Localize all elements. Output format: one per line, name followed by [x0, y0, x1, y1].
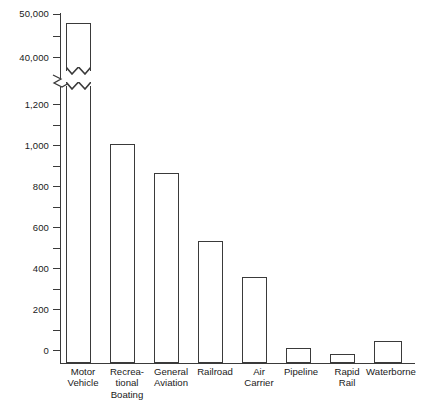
bar-general-aviation	[154, 173, 179, 363]
y-tick-major	[53, 145, 60, 146]
y-axis-tick-label: 0	[0, 346, 49, 356]
x-axis-label-waterborne: Waterborne	[358, 366, 423, 377]
y-axis-tick-label: 200	[0, 305, 49, 315]
y-axis-upper-segment	[60, 13, 61, 81]
y-tick-minor	[53, 207, 60, 208]
y-tick-major	[53, 350, 60, 351]
bar-pipeline	[286, 348, 311, 363]
bar-railroad	[198, 241, 223, 363]
bar-motor-vehicle-lower	[66, 86, 91, 363]
y-tick-major	[53, 57, 60, 58]
y-axis-tick-label: 400	[0, 264, 49, 274]
bar-break-top-icon	[66, 67, 91, 75]
y-tick-minor	[53, 330, 60, 331]
x-axis-baseline	[60, 363, 415, 364]
y-tick-minor	[53, 36, 60, 37]
y-tick-major	[53, 309, 60, 310]
bar-air-carrier	[242, 277, 267, 363]
y-axis-tick-label: 50,000	[0, 9, 49, 19]
y-tick-minor	[53, 248, 60, 249]
y-tick-major	[53, 14, 60, 15]
y-axis-tick-label: 1,200	[0, 100, 49, 110]
bar-rapid-rail	[330, 354, 355, 363]
y-axis-tick-label: 40,000	[0, 53, 49, 63]
y-axis-tick-label: 800	[0, 182, 49, 192]
y-tick-minor	[53, 166, 60, 167]
y-axis-lower-segment	[60, 87, 61, 364]
y-tick-minor	[53, 125, 60, 126]
bar-break-bottom-icon	[66, 82, 91, 90]
y-tick-major	[53, 268, 60, 269]
y-axis-tick-label: 600	[0, 223, 49, 233]
bar-recreational-boating	[110, 144, 135, 363]
y-tick-major	[53, 186, 60, 187]
y-tick-major	[53, 104, 60, 105]
bar-motor-vehicle-upper	[66, 23, 91, 71]
y-axis-tick-label: 1,000	[0, 141, 49, 151]
bar-waterborne	[374, 341, 402, 363]
y-tick-major	[53, 227, 60, 228]
bar-chart: 50,00040,0001,2001,0008006004002000 Moto…	[0, 0, 423, 404]
y-tick-minor	[53, 289, 60, 290]
